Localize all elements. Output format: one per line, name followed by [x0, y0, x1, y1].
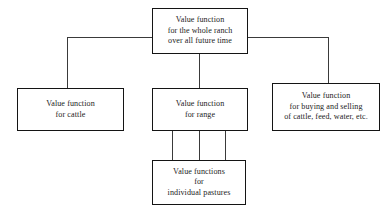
node-value-function-range[interactable]: Value function for range [152, 88, 248, 131]
node-buysell-line-2: for buying and selling [289, 102, 362, 113]
connector-root-to-cattle-vertical [67, 37, 68, 89]
connector-range-to-pastures-center [199, 130, 200, 161]
connector-root-to-buyingselling-horizontal [247, 37, 329, 38]
connector-root-to-cattle-horizontal [67, 37, 153, 38]
node-pastures-line-3: individual pastures [168, 188, 231, 199]
node-value-function-whole-ranch[interactable]: Value function for the whole ranch over … [152, 8, 248, 54]
node-buysell-line-1: Value function [302, 91, 351, 102]
connector-range-to-pastures-right [225, 130, 226, 161]
connector-root-to-buyingselling-vertical [328, 37, 329, 84]
node-cattle-line-2: for cattle [56, 110, 86, 121]
node-value-function-cattle[interactable]: Value function for cattle [17, 88, 124, 131]
node-value-function-buying-selling[interactable]: Value function for buying and selling of… [272, 83, 380, 131]
node-pastures-line-1: Value functions [173, 167, 225, 178]
node-range-line-2: for range [185, 110, 215, 121]
node-root-line-2: for the whole ranch [168, 26, 233, 37]
node-range-line-1: Value function [176, 99, 225, 110]
node-root-line-3: over all future time [168, 36, 232, 47]
node-pastures-line-2: for [194, 177, 204, 188]
diagram-canvas: Value function for the whole ranch over … [0, 0, 391, 215]
node-cattle-line-1: Value function [46, 99, 95, 110]
connector-range-to-pastures-left [172, 130, 173, 161]
node-buysell-line-3: of cattle, feed, water, etc. [284, 112, 368, 123]
node-root-line-1: Value function [176, 15, 225, 26]
connector-root-to-range-vertical [199, 53, 200, 89]
node-value-functions-individual-pastures[interactable]: Value functions for individual pastures [152, 160, 246, 205]
